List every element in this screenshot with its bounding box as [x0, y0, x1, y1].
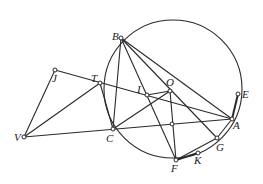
- label-E: E: [241, 88, 249, 100]
- point-B: [119, 36, 123, 40]
- geometry-diagram: B J T I O E A V C G K F: [0, 0, 263, 184]
- point-E: [236, 92, 240, 96]
- label-O: O: [166, 76, 174, 88]
- point-O: [168, 89, 172, 93]
- labels: B J T I O E A V C G K F: [14, 30, 249, 174]
- label-I: I: [136, 83, 142, 95]
- segments: [24, 38, 238, 160]
- label-F: F: [170, 162, 178, 174]
- label-V: V: [14, 131, 22, 143]
- point-T: [98, 81, 102, 85]
- label-G: G: [216, 141, 224, 153]
- label-K: K: [193, 154, 202, 166]
- point-C: [111, 127, 115, 131]
- point-G: [215, 136, 219, 140]
- label-J: J: [52, 72, 58, 84]
- point-V: [22, 135, 26, 139]
- label-C: C: [106, 132, 114, 144]
- label-T: T: [91, 72, 98, 84]
- point-I: [145, 93, 149, 97]
- label-B: B: [112, 30, 119, 42]
- point-M: [170, 122, 174, 126]
- label-A: A: [232, 119, 240, 131]
